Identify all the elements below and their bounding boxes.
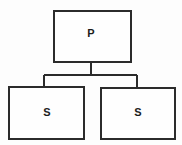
node-label-child-left: S (43, 106, 50, 118)
node-label-parent: P (87, 27, 94, 39)
diagram-canvas: P S S (0, 0, 182, 145)
tree-diagram: P S S (0, 0, 182, 145)
node-label-child-right: S (134, 106, 141, 118)
